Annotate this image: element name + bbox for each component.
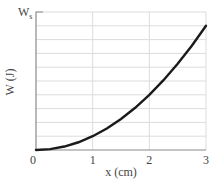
x-tick-label: 0	[30, 153, 36, 167]
chart: 0123 x (cm) W (J) Ws	[0, 0, 215, 183]
y-top-label-subscript: s	[29, 12, 32, 21]
x-tick-label: 1	[90, 153, 96, 167]
x-tick-label: 3	[203, 153, 209, 167]
series-line-w	[36, 26, 206, 150]
y-top-label: Ws	[18, 5, 32, 21]
y-top-label-main: W	[18, 5, 30, 19]
x-axis-label: x (cm)	[105, 165, 137, 179]
y-axis-label: W (J)	[3, 69, 17, 96]
x-tick-label: 2	[146, 153, 152, 167]
